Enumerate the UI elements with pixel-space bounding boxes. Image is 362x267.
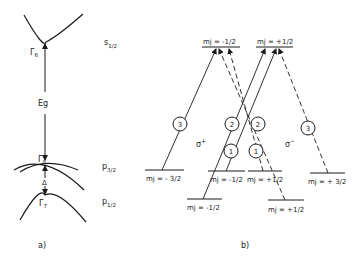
circle-label-1-right: 1 bbox=[249, 144, 263, 158]
diagram-canvas: Γ6 Eg Γ8 Δ Γ7 s1/2 p3/2 p1/2 a) mj = -1/… bbox=[0, 0, 362, 267]
circle-label-2-left: 2 bbox=[225, 117, 239, 131]
panel-b: mj = -1/2 mj = +1/2 mj = - 3/2 mj = -1/2… bbox=[145, 38, 346, 250]
circle-label-2-right: 2 bbox=[251, 117, 265, 131]
sigma-plus-label: σ+ bbox=[196, 137, 206, 149]
gamma6-label: Γ6 bbox=[30, 48, 38, 58]
circle-label-3-right: 3 bbox=[301, 121, 315, 135]
p12-label: p1/2 bbox=[102, 197, 116, 208]
panel-a-caption: a) bbox=[38, 241, 46, 250]
svg-text:1: 1 bbox=[254, 148, 258, 156]
circle-label-3-left: 3 bbox=[173, 117, 187, 131]
gamma7-label: Γ7 bbox=[39, 199, 47, 209]
transition-3-sigma-minus bbox=[279, 49, 328, 173]
level-upper-p12-label: mj = +1/2 bbox=[257, 38, 293, 46]
level-low-p12-label: mj = +1/2 bbox=[268, 206, 304, 214]
level-mid-p32-label: mj = + 3/2 bbox=[308, 178, 346, 186]
panel-a: Γ6 Eg Γ8 Δ Γ7 s1/2 p3/2 p1/2 a) bbox=[14, 14, 117, 250]
circle-label-1-left: 1 bbox=[224, 144, 238, 158]
delta-label: Δ bbox=[42, 179, 47, 187]
s12-label: s1/2 bbox=[104, 38, 117, 49]
svg-text:3: 3 bbox=[306, 125, 310, 133]
level-low-m12-label: mj = -1/2 bbox=[187, 204, 220, 212]
sigma-minus-label: σ− bbox=[285, 137, 295, 149]
p32-label: p3/2 bbox=[102, 162, 116, 173]
split-off-band bbox=[20, 193, 86, 222]
svg-text:2: 2 bbox=[230, 121, 234, 129]
level-mid-m32-label: mj = - 3/2 bbox=[146, 175, 181, 183]
level-upper-m12-label: mj = -1/2 bbox=[203, 38, 236, 46]
svg-text:1: 1 bbox=[229, 148, 233, 156]
level-mid-m12-label: mj = -1/2 bbox=[210, 176, 243, 184]
eg-label: Eg bbox=[38, 99, 48, 108]
conduction-band-curve bbox=[24, 14, 83, 43]
svg-text:3: 3 bbox=[178, 121, 182, 129]
panel-b-caption: b) bbox=[241, 241, 249, 250]
transition-3-sigma-plus bbox=[162, 49, 216, 170]
svg-text:2: 2 bbox=[256, 121, 260, 129]
